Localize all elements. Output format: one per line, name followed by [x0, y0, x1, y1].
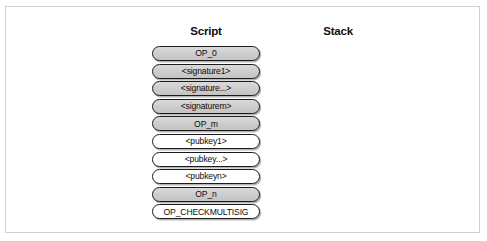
figure-frame: Script Stack OP_0<signature1><signature.… — [5, 6, 480, 233]
script-op-label: <pubkey...> — [185, 155, 228, 164]
script-op-label: OP_0 — [195, 49, 216, 58]
script-op-box: <signature1> — [152, 64, 260, 79]
script-op-box: <signature...> — [152, 81, 260, 96]
script-op-box: OP_m — [152, 116, 260, 131]
script-op-box: OP_n — [152, 187, 260, 202]
script-op-box: <pubkey...> — [152, 152, 260, 167]
script-op-label: <pubkeyn> — [185, 172, 226, 181]
stack-column-header: Stack — [288, 25, 388, 37]
script-op-label: <signaturem> — [181, 102, 232, 111]
script-op-label: OP_m — [194, 119, 218, 128]
script-op-box: <signaturem> — [152, 99, 260, 114]
script-op-box: <pubkeyn> — [152, 169, 260, 184]
script-op-label: OP_CHECKMULTISIG — [164, 207, 249, 216]
script-op-box: <pubkey1> — [152, 134, 260, 149]
script-op-label: <signature1> — [182, 67, 230, 76]
script-op-box: OP_CHECKMULTISIG — [152, 204, 260, 219]
script-op-box: OP_0 — [152, 46, 260, 61]
script-stack-figure: Script Stack OP_0<signature1><signature.… — [0, 0, 487, 241]
script-column: OP_0<signature1><signature...><signature… — [152, 46, 260, 222]
script-op-label: <signature...> — [181, 84, 231, 93]
script-op-label: OP_n — [195, 190, 216, 199]
script-op-label: <pubkey1> — [185, 137, 226, 146]
stack-column — [288, 46, 396, 224]
script-column-header: Script — [156, 25, 256, 37]
